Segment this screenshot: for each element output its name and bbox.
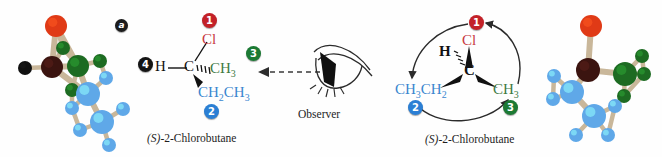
observer-group: Observer [258, 30, 378, 140]
caption-right: (S)-2-Chlorobutane [425, 133, 514, 145]
rotation-arrow-3-to-1 [486, 23, 520, 84]
left-2d-structure: Cl H C CH3 CH2CH3 1 2 3 4 (S)-2-Chlorobu… [150, 8, 270, 153]
left-model-svg [10, 4, 150, 154]
model-atom-h [65, 101, 79, 115]
model-atom-h [601, 128, 615, 142]
right-2d-structure: Cl H C CH3CH2 CH3 1 2 3 (S)-2-Chlorobuta… [390, 6, 550, 156]
rotation-arrow-2-to-3 [416, 100, 508, 121]
observer-eye-svg [258, 30, 378, 110]
model-atom-c [90, 110, 114, 134]
label-ethyl-left: CH2CH3 [198, 84, 250, 103]
model-atom-h [546, 92, 560, 106]
model-atom-h [18, 61, 32, 75]
model-atom-h [93, 54, 107, 68]
model-atom-h [102, 138, 116, 152]
model-atom-c [76, 82, 100, 106]
eye-pupil-icon [320, 52, 336, 87]
priority-badge-4-left: 4 [138, 57, 153, 72]
bond-c-methyl-hashed-left [197, 65, 210, 74]
label-methyl-right: CH3 [493, 81, 519, 100]
ball-and-stick-model-left [10, 4, 150, 154]
figure-canvas: a Cl H C CH3 CH2CH3 [0, 0, 662, 157]
sight-line-dashed [258, 67, 322, 77]
model-atom-cl [45, 15, 67, 37]
model-atom-h [99, 71, 113, 85]
model-atom-h [116, 102, 130, 116]
label-h-right: H [439, 43, 451, 60]
label-h-left: H [155, 58, 166, 75]
model-atom-h [73, 123, 87, 137]
model-atom-h [56, 41, 70, 55]
priority-badge-3-right: 3 [503, 100, 518, 115]
model-atom-h [637, 67, 651, 81]
label-c-left: C [184, 58, 194, 75]
right-model-svg [558, 4, 662, 154]
model-atom-h [547, 69, 561, 83]
priority-badge-2-left: 2 [204, 104, 219, 119]
model-atom-c [582, 104, 606, 128]
model-atom-h [635, 49, 649, 63]
model-atom-c [67, 55, 89, 77]
label-ethyl-right: CH3CH2 [395, 81, 447, 100]
priority-badge-1-right: 1 [469, 15, 484, 30]
observer-label: Observer [298, 108, 340, 120]
caption-left: (S)-2-Chlorobutane [147, 132, 236, 144]
label-methyl-left: CH3 [210, 60, 236, 79]
arrowhead-left-icon [258, 67, 269, 77]
model-atom-cl [580, 15, 602, 37]
priority-badge-2-right: 2 [408, 100, 423, 115]
priority-badge-1-left: 1 [202, 13, 217, 28]
panel-label-a: a [115, 19, 128, 32]
label-cl-right: Cl [462, 32, 476, 49]
model-atom-c [41, 56, 63, 78]
model-atom-c [576, 58, 600, 82]
model-atom-c [613, 62, 637, 86]
model-atom-h [608, 99, 622, 113]
model-atom-h [569, 128, 583, 142]
label-c-right: C [464, 62, 475, 79]
label-cl-left: Cl [202, 31, 216, 48]
ball-and-stick-model-right [558, 4, 662, 154]
model-atom-c [560, 80, 584, 104]
